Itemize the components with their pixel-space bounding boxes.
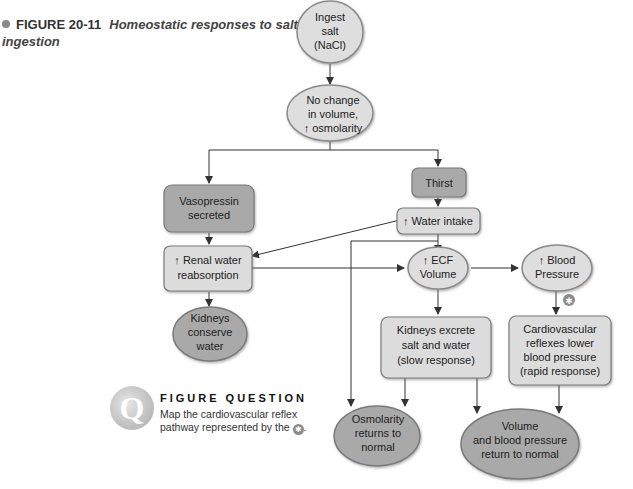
- svg-text:↑ osmolarity: ↑ osmolarity: [304, 122, 363, 134]
- node-thirst: Thirst: [412, 168, 466, 197]
- svg-text:(slow response): (slow response): [397, 354, 475, 366]
- svg-text:and blood pressure: and blood pressure: [473, 434, 567, 446]
- figure-question-text: Map the cardiovascular reflex pathway re…: [160, 408, 297, 433]
- svg-text:normal: normal: [361, 441, 395, 453]
- svg-text:returns to: returns to: [355, 427, 401, 439]
- figure-question-suffix: .: [304, 421, 307, 433]
- flowchart: ✱ Ingest salt (NaCl) No change in volume…: [0, 0, 633, 489]
- node-blood-pressure: ↑ Blood Pressure: [522, 245, 592, 291]
- svg-text:↑ Water intake: ↑ Water intake: [403, 215, 473, 227]
- svg-text:Osmolarity: Osmolarity: [352, 413, 405, 425]
- svg-text:blood pressure: blood pressure: [524, 351, 597, 363]
- svg-text:Volume: Volume: [502, 420, 539, 432]
- cardiovascular-reflex-marker-icon: ✱: [563, 294, 575, 306]
- svg-text:No change: No change: [306, 94, 359, 106]
- svg-text:Volume: Volume: [420, 268, 457, 280]
- node-kidneys-excrete-salt-water: Kidneys excrete salt and water (slow res…: [381, 317, 491, 378]
- svg-text:↑ Renal water: ↑ Renal water: [174, 254, 242, 266]
- svg-text:secreted: secreted: [188, 209, 230, 221]
- svg-text:water: water: [196, 340, 224, 352]
- svg-text:↑ Blood: ↑ Blood: [539, 254, 576, 266]
- marker-star-icon: ✱: [293, 424, 304, 435]
- node-water-intake: ↑ Water intake: [397, 208, 480, 234]
- svg-text:Kidneys: Kidneys: [190, 312, 230, 324]
- svg-text:↑ ECF: ↑ ECF: [423, 254, 454, 266]
- svg-text:Cardiovascular: Cardiovascular: [523, 323, 597, 335]
- node-renal-water-reabsorption: ↑ Renal water reabsorption: [164, 246, 252, 291]
- svg-text:✱: ✱: [565, 296, 573, 306]
- svg-text:Ingest: Ingest: [315, 11, 345, 23]
- svg-text:Thirst: Thirst: [425, 177, 453, 189]
- svg-text:in volume,: in volume,: [308, 108, 358, 120]
- svg-text:reflexes lower: reflexes lower: [526, 337, 594, 349]
- figure-question-body: Map the cardiovascular reflex pathway re…: [160, 408, 310, 435]
- node-kidneys-conserve-water: Kidneys conserve water: [173, 307, 247, 361]
- node-ingest-salt: Ingest salt (NaCl): [297, 1, 363, 63]
- svg-text:salt: salt: [321, 25, 338, 37]
- svg-text:conserve: conserve: [188, 326, 233, 338]
- node-osmolarity-returns-normal: Osmolarity returns to normal: [334, 406, 420, 466]
- svg-text:salt and water: salt and water: [402, 339, 471, 351]
- svg-text:return to normal: return to normal: [481, 448, 559, 460]
- svg-text:(rapid response): (rapid response): [520, 365, 600, 377]
- svg-text:(NaCl): (NaCl): [314, 39, 346, 51]
- node-vasopressin-secreted: Vasopressin secreted: [164, 185, 254, 232]
- svg-text:Kidneys excrete: Kidneys excrete: [397, 324, 475, 336]
- node-no-change: No change in volume, ↑ osmolarity: [287, 85, 373, 141]
- svg-text:Pressure: Pressure: [535, 268, 579, 280]
- node-volume-bp-normal: Volume and blood pressure return to norm…: [461, 409, 579, 479]
- svg-text:Vasopressin: Vasopressin: [179, 195, 239, 207]
- svg-text:reabsorption: reabsorption: [177, 269, 238, 281]
- figure-question-title: FIGURE QUESTION: [160, 392, 307, 404]
- node-ecf-volume: ↑ ECF Volume: [408, 247, 468, 289]
- question-q-icon: Q: [110, 386, 154, 430]
- node-cardiovascular-reflexes: Cardiovascular reflexes lower blood pres…: [509, 316, 611, 385]
